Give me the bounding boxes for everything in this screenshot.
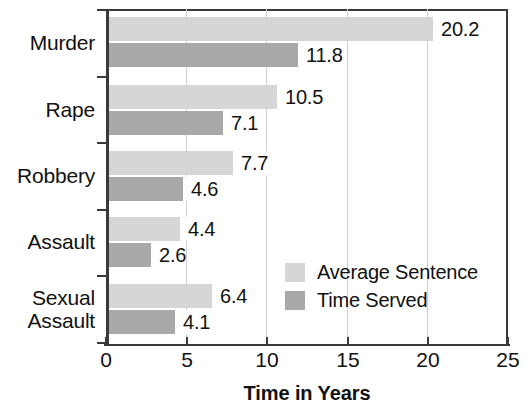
legend-label-time-served: Time Served — [317, 289, 427, 311]
chart-legend: Average Sentence Time Served — [285, 258, 478, 314]
x-axis-line — [104, 344, 510, 346]
bar-average-sentence-assault — [109, 217, 180, 241]
x-axis-tick — [427, 337, 429, 345]
category-label-sexual-assault: Sexual Assault — [0, 286, 95, 332]
category-label-rape: Rape — [0, 98, 95, 121]
x-axis-tick — [347, 337, 349, 345]
category-label-robbery: Robbery — [0, 164, 95, 187]
bar-value-average-sentence-robbery: 7.7 — [236, 151, 268, 175]
bar-time-served-robbery — [109, 177, 183, 201]
bar-value-time-served-murder: 11.8 — [301, 43, 343, 67]
x-axis-tick-label-25: 25 — [478, 348, 526, 372]
bar-time-served-murder — [109, 43, 298, 67]
x-axis-tick-label-0: 0 — [76, 348, 136, 372]
y-axis-tick — [97, 275, 106, 277]
bar-time-served-sexual-assault — [109, 310, 175, 334]
legend-label-average-sentence: Average Sentence — [317, 261, 478, 283]
x-axis-tick — [186, 337, 188, 345]
x-axis-tick — [105, 337, 107, 345]
bar-time-served-rape — [109, 111, 223, 135]
x-axis-tick — [266, 337, 268, 345]
bar-time-served-assault — [109, 243, 151, 267]
legend-item-average-sentence: Average Sentence — [285, 258, 478, 286]
y-axis-tick — [97, 209, 106, 211]
y-axis-tick — [97, 142, 106, 144]
category-label-murder: Murder — [0, 31, 95, 54]
bar-value-time-served-robbery: 4.6 — [186, 177, 218, 201]
bar-value-average-sentence-rape: 10.5 — [280, 85, 323, 109]
bar-average-sentence-rape — [109, 85, 277, 109]
category-label-assault: Assault — [0, 230, 95, 253]
x-axis-tick-label-5: 5 — [157, 348, 217, 372]
bar-value-time-served-rape: 7.1 — [226, 111, 258, 135]
bar-value-average-sentence-murder: 20.2 — [436, 17, 479, 41]
legend-item-time-served: Time Served — [285, 286, 478, 314]
x-axis-tick — [507, 337, 509, 345]
bar-average-sentence-robbery — [109, 151, 233, 175]
bar-value-average-sentence-sexual-assault: 6.4 — [215, 284, 247, 308]
y-axis-tick — [97, 9, 106, 11]
x-axis-title: Time in Years — [106, 382, 508, 405]
bar-chart: Murder Rape Robbery Assault Sexual Assau… — [0, 0, 526, 416]
bar-value-time-served-sexual-assault: 4.1 — [178, 310, 210, 334]
x-axis-tick-label-15: 15 — [318, 348, 378, 372]
bar-value-time-served-assault: 2.6 — [154, 243, 186, 267]
bar-average-sentence-sexual-assault — [109, 284, 212, 308]
legend-swatch-average-sentence-icon — [285, 263, 305, 282]
x-axis-tick-label-10: 10 — [237, 348, 297, 372]
bar-average-sentence-murder — [109, 17, 433, 41]
legend-swatch-time-served-icon — [285, 291, 305, 310]
x-axis-tick-label-20: 20 — [398, 348, 458, 372]
y-axis-tick — [97, 76, 106, 78]
bar-value-average-sentence-assault: 4.4 — [183, 217, 215, 241]
